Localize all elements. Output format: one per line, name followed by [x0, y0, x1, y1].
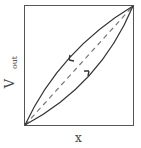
y-axis-label-main: V	[2, 79, 17, 88]
arrow-up-right-icon	[84, 71, 89, 76]
y-axis-label-subscript: out	[10, 56, 19, 69]
y-axis-label: out V	[2, 50, 22, 94]
x-axis-label: x	[75, 131, 82, 145]
linear-reference-line	[25, 6, 133, 125]
